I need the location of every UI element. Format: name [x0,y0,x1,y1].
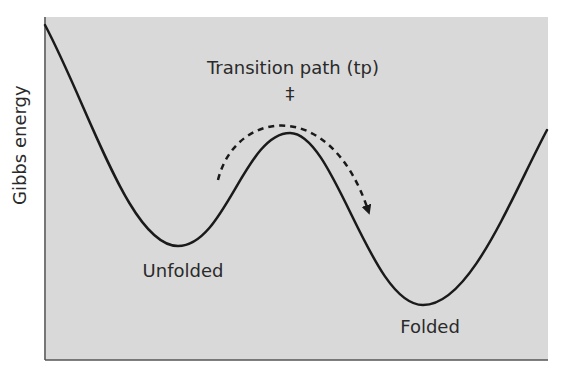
transition-path-label: Transition path (tp) [206,57,379,78]
folded-label: Folded [400,316,460,337]
unfolded-label: Unfolded [143,260,224,281]
energy-landscape-plot: Transition path (tp) ‡ Unfolded Folded [0,0,562,371]
transition-state-symbol: ‡ [286,83,295,104]
